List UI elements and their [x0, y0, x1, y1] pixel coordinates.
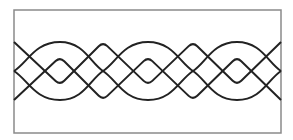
- diagram-frame: [14, 10, 281, 133]
- smooth-wave-upper-curve: [14, 42, 281, 100]
- smooth-wave-lower-curve: [14, 42, 281, 100]
- braided-wave-diagram: [0, 0, 293, 140]
- curve-group: [14, 42, 281, 100]
